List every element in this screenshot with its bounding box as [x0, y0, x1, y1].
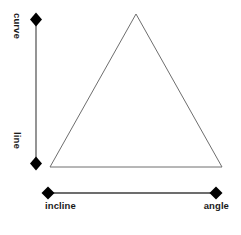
shape-space-diagram: curve line incline angle	[0, 0, 241, 235]
horizontal-axis-left-diamond-marker	[42, 187, 55, 200]
vertical-axis-top-label: curve	[13, 13, 23, 39]
horizontal-axis-right-label: angle	[204, 201, 229, 211]
vertical-axis-bottom-diamond-marker	[30, 157, 42, 171]
vertical-axis-top-diamond-marker	[30, 13, 42, 27]
horizontal-axis-left-label: incline	[45, 201, 76, 211]
vertical-axis-bottom-label: line	[13, 132, 23, 149]
horizontal-axis-right-diamond-marker	[210, 187, 223, 200]
triangle-shape	[50, 14, 222, 167]
